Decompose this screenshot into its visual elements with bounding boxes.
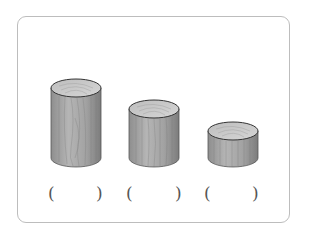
- tall-cylinder: [49, 78, 103, 170]
- answer-paren-right-1: ): [96, 183, 103, 203]
- medium-cylinder: [127, 99, 181, 169]
- answer-paren-right-2: ): [175, 183, 182, 203]
- answer-paren-right-3: ): [252, 183, 259, 203]
- answer-paren-left-3: (: [204, 183, 211, 203]
- answer-paren-left-1: (: [48, 183, 55, 203]
- answer-paren-left-2: (: [126, 183, 133, 203]
- short-cylinder: [206, 121, 260, 169]
